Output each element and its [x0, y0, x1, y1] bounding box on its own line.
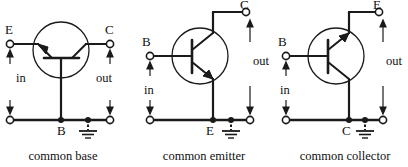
- terminal-e-top[interactable]: [6, 40, 13, 47]
- collector-slant: [192, 33, 213, 50]
- circuit-common-emitter: [136, 0, 272, 140]
- caption-common-emitter: common emitter: [163, 150, 245, 163]
- label-terminal-c-ce: C: [240, 0, 249, 11]
- label-out-cb: out: [96, 72, 112, 85]
- label-terminal-c-cb: C: [105, 23, 114, 36]
- label-terminal-e-cc: E: [373, 0, 381, 11]
- circuit-common-collector: [272, 0, 408, 140]
- label-terminal-e-cb: E: [5, 23, 13, 36]
- terminal-out-bottom[interactable]: [106, 116, 113, 123]
- terminal-c-top[interactable]: [106, 40, 113, 47]
- label-common-node-cc: C: [342, 124, 351, 137]
- terminal-b-left[interactable]: [146, 52, 153, 59]
- figure-canvas: E C in out B common base B C in out E co…: [0, 0, 408, 167]
- caption-common-collector: common collector: [300, 150, 391, 163]
- label-terminal-b-ce: B: [142, 35, 151, 48]
- label-out-cc: out: [386, 55, 402, 68]
- label-in-ce: in: [144, 84, 154, 97]
- collector-slant: [328, 62, 349, 79]
- caption-common-base: common base: [28, 150, 97, 163]
- label-in-cb: in: [16, 72, 26, 85]
- terminal-in-bottom[interactable]: [282, 116, 289, 123]
- label-common-node-cb: B: [57, 124, 66, 137]
- input-arrow: [7, 50, 13, 114]
- terminal-out-bottom[interactable]: [379, 116, 386, 123]
- terminal-b-left[interactable]: [282, 52, 289, 59]
- label-in-cc: in: [280, 84, 290, 97]
- collector-slant: [72, 44, 86, 58]
- label-common-node-ce: E: [206, 124, 214, 137]
- label-terminal-b-cc: B: [278, 35, 287, 48]
- circuit-common-base: [0, 0, 136, 140]
- label-out-ce: out: [253, 55, 269, 68]
- terminal-out-bottom[interactable]: [246, 116, 253, 123]
- terminal-in-bottom[interactable]: [6, 116, 13, 123]
- terminal-in-bottom[interactable]: [146, 116, 153, 123]
- emitter-arrow: [38, 44, 48, 54]
